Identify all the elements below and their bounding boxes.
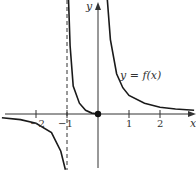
function-graph: x y y = f(x) −2 −1 1 2 xyxy=(0,0,196,170)
curve-right-branch xyxy=(107,0,194,110)
x-axis-label: x xyxy=(190,117,196,130)
y-axis-arrow-icon xyxy=(95,2,101,10)
origin-point xyxy=(95,111,101,117)
tick-label-1: 1 xyxy=(126,118,132,129)
curve-middle-branch xyxy=(69,0,99,114)
tick-label-neg1: −1 xyxy=(58,118,73,129)
curve-label: y = f(x) xyxy=(119,69,161,82)
graph-canvas: x y y = f(x) −2 −1 1 2 xyxy=(0,0,196,170)
y-axis-label: y xyxy=(85,0,93,13)
tick-label-2: 2 xyxy=(157,118,163,129)
tick-label-neg2: −2 xyxy=(30,118,45,129)
